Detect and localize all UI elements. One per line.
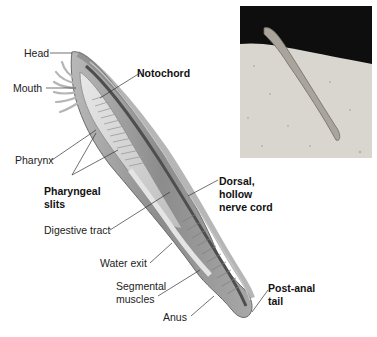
- label-pharynx: Pharynx: [15, 154, 54, 166]
- photo-image: [240, 6, 372, 158]
- label-dorsal-nerve-cord-line3: nerve cord: [219, 201, 273, 213]
- label-pharyngeal-slits-line2: slits: [44, 198, 65, 210]
- label-water-exit: Water exit: [100, 257, 147, 269]
- label-pharyngeal-slits-line1: Pharyngeal: [44, 185, 101, 197]
- label-digestive-tract: Digestive tract: [44, 224, 111, 236]
- label-post-anal-tail-line1: Post-anal: [268, 282, 315, 294]
- label-post-anal-tail-line2: tail: [268, 295, 283, 307]
- lancelet-diagram: Head Mouth Notochord Pharynx Pharyngeal …: [0, 0, 377, 337]
- lancelet-photo-inset: [240, 6, 372, 158]
- label-mouth: Mouth: [13, 82, 42, 94]
- label-notochord: Notochord: [137, 67, 190, 79]
- label-dorsal-nerve-cord-line2: hollow: [219, 188, 252, 200]
- label-segmental-muscles-line1: Segmental: [116, 280, 166, 292]
- sand: [240, 43, 372, 158]
- label-head: Head: [24, 47, 49, 59]
- label-dorsal-nerve-cord-line1: Dorsal,: [219, 175, 255, 187]
- label-segmental-muscles-line2: muscles: [116, 293, 155, 305]
- label-anus: Anus: [163, 311, 187, 323]
